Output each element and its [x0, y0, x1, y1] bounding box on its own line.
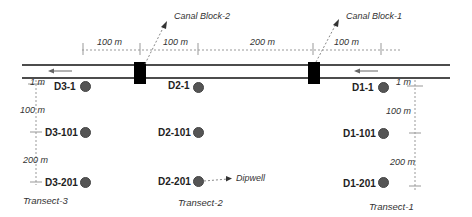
dipwell-marker — [193, 127, 204, 138]
well-label: D1-1 — [352, 82, 374, 93]
well-label: D1-201 — [343, 178, 376, 189]
dipwell-marker — [193, 176, 204, 187]
well-label: D3-1 — [54, 81, 76, 92]
canal-block-2 — [134, 62, 146, 84]
dimension-label: 200 m — [250, 37, 275, 47]
dipwell-marker — [80, 177, 91, 188]
dimension-label: 100 m — [334, 37, 359, 47]
dipwell-marker — [378, 128, 389, 139]
flow-arrow-icon — [354, 69, 360, 74]
well-label: D3-101 — [45, 127, 78, 138]
dipwell-marker — [80, 127, 91, 138]
transect-label: Transect-3 — [23, 195, 68, 206]
well-label: D1-101 — [343, 128, 376, 139]
dimension-label: 100 m — [97, 37, 122, 47]
dipwell-marker — [193, 82, 204, 93]
dipwell-arrow-icon — [226, 176, 232, 182]
flow-arrow-icon — [48, 69, 54, 74]
well-label: D2-1 — [168, 80, 190, 91]
right-scale-top: 1 m — [396, 77, 411, 87]
left-scale-mid: 100 m — [20, 105, 45, 115]
right-scale-mid: 100 m — [386, 106, 411, 116]
dimension-label: 100 m — [163, 37, 188, 47]
dipwell-marker — [378, 177, 389, 188]
well-label: D2-101 — [158, 127, 191, 138]
callout-arrow-icon — [161, 21, 167, 29]
well-label: D3-201 — [45, 177, 78, 188]
left-scale-top: 1 m — [30, 77, 45, 87]
canal-block-1 — [308, 62, 320, 84]
transect-label: Transect-2 — [178, 197, 223, 208]
well-label: D2-201 — [158, 176, 191, 187]
right-scale-bottom: 200 m — [390, 157, 415, 167]
dipwell-marker — [80, 81, 91, 92]
dipwell-marker — [378, 82, 389, 93]
callout-arrow-icon — [333, 19, 339, 27]
canal-block-1-label: Canal Block-1 — [346, 11, 402, 21]
left-scale-bottom: 200 m — [23, 155, 48, 165]
transect-label: Transect-1 — [369, 201, 414, 212]
dipwell-label: Dipwell — [236, 173, 265, 183]
canal-block-2-label: Canal Block-2 — [174, 11, 230, 21]
